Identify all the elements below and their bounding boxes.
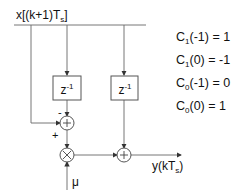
coefficient-c1-0: C1(0) = -1	[176, 54, 230, 69]
plus-sign: +	[52, 130, 58, 141]
delay-label-2: z-1	[111, 82, 139, 97]
coefficient-c0-0: C0(0) = 1	[176, 100, 226, 115]
output-label: y(kTs)	[152, 160, 183, 175]
delay-label-1: z-1	[53, 82, 81, 97]
gain-label: μ	[72, 176, 79, 188]
coefficient-c1-minus1: C1(-1) = 1	[176, 31, 230, 46]
input-label: x[(k+1)Ts]	[16, 9, 68, 24]
minus-sign: -	[58, 107, 62, 118]
coefficient-c0-minus1: C0(-1) = 0	[176, 77, 230, 92]
